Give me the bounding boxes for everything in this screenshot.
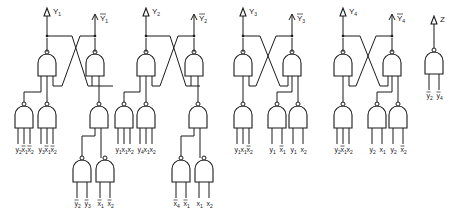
label-Y3: Y3 bbox=[249, 7, 257, 17]
label-Y2: Y2 bbox=[152, 7, 160, 17]
input-label-x2: x2 bbox=[347, 146, 354, 155]
output-z-gate: Z bbox=[425, 15, 445, 90]
input-label-y2: y2 bbox=[370, 146, 377, 155]
input-label-x2-bar: x2 bbox=[28, 146, 35, 155]
input-label-y2-bar: y2 bbox=[75, 200, 82, 209]
flipflop-3: Y3 Y3 bbox=[234, 7, 307, 144]
input-label-x2: x2 bbox=[207, 200, 214, 209]
input-label-y2-bar: y2 bbox=[427, 92, 434, 101]
output-arrow-icon bbox=[143, 8, 149, 16]
input-label-y1: y1 bbox=[291, 146, 298, 155]
label-Y1: Y1 bbox=[53, 7, 61, 17]
output-arrow-icon bbox=[431, 16, 437, 24]
input-label-x1: x1 bbox=[197, 200, 204, 209]
input-label-x2-bar: x2 bbox=[401, 146, 408, 155]
output-arrow-icon bbox=[340, 8, 346, 16]
input-label-x4-bar: x4 bbox=[174, 200, 181, 209]
input-label-x2-bar: x2 bbox=[247, 146, 254, 155]
flipflop-4: Y4 Y4 bbox=[334, 7, 407, 144]
input-label-x1-bar: x1 bbox=[280, 146, 287, 155]
input-label-x1: x1 bbox=[380, 146, 387, 155]
label-Z: Z bbox=[440, 15, 445, 24]
input-label-x2: x2 bbox=[128, 146, 135, 155]
input-label-x1-bar: x1 bbox=[98, 200, 105, 209]
output-arrow-icon bbox=[240, 8, 246, 16]
label-nY3: Y3 bbox=[297, 14, 305, 24]
input-label-y1: y1 bbox=[270, 146, 277, 155]
input-label-x2: x2 bbox=[301, 146, 308, 155]
label-nY4: Y4 bbox=[397, 14, 405, 24]
input-label-y2: y2 bbox=[391, 146, 398, 155]
label-Y4: Y4 bbox=[349, 7, 357, 17]
flipflop-2: Y2 Y2 bbox=[115, 7, 213, 198]
input-label-x2: x2 bbox=[150, 146, 157, 155]
input-label-x2-bar: x2 bbox=[108, 200, 115, 209]
input-label-x2-bar: x2 bbox=[51, 146, 58, 155]
output-arrow-icon bbox=[44, 8, 50, 16]
label-nY2: Y2 bbox=[199, 14, 207, 24]
flipflop-1: Y1 Y1 bbox=[15, 7, 114, 198]
input-label-y3-bar: y3 bbox=[85, 200, 92, 209]
logic-circuit-diagram: Y1 Y1 bbox=[0, 0, 459, 219]
label-nY1: Y1 bbox=[100, 14, 108, 24]
input-label-x1-bar: x1 bbox=[184, 200, 191, 209]
input-label-y4-bar: y4 bbox=[437, 92, 444, 101]
